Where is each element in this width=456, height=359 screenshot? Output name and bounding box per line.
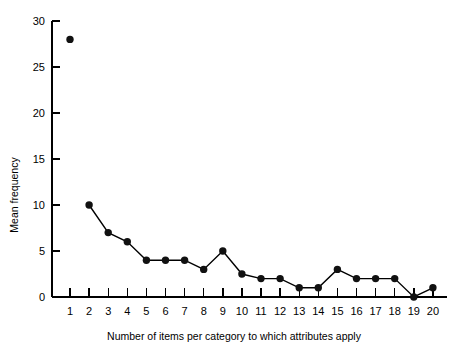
data-point-marker (181, 257, 188, 264)
y-axis (52, 21, 60, 297)
data-point-marker (410, 293, 417, 300)
y-axis-title: Mean frequency (8, 157, 20, 233)
data-point-marker (353, 275, 360, 282)
x-axis-title: Number of items per category to which at… (107, 330, 362, 342)
x-tick-label: 8 (201, 305, 207, 317)
x-tick-label: 10 (236, 305, 248, 317)
x-tick-label: 3 (105, 305, 111, 317)
data-point-marker (124, 238, 131, 245)
x-tick-label: 19 (408, 305, 420, 317)
data-point-marker (219, 247, 226, 254)
data-point-marker (66, 36, 73, 43)
x-axis (52, 288, 447, 297)
data-point-marker (276, 275, 283, 282)
data-series (66, 36, 436, 301)
data-point-marker (315, 284, 322, 291)
y-tick-label: 0 (39, 291, 45, 303)
y-axis-tick-labels: 051015202530 (33, 15, 45, 303)
data-point-marker (429, 284, 436, 291)
figure-container: 051015202530 123456789101112131415161718… (0, 0, 456, 359)
y-tick-label: 5 (39, 245, 45, 257)
data-point-marker (238, 270, 245, 277)
data-point-marker (334, 266, 341, 273)
x-tick-label: 5 (143, 305, 149, 317)
data-point-marker (200, 266, 207, 273)
x-tick-label: 16 (350, 305, 362, 317)
x-tick-label: 17 (369, 305, 381, 317)
x-tick-label: 18 (389, 305, 401, 317)
x-tick-label: 2 (86, 305, 92, 317)
data-point-marker (391, 275, 398, 282)
x-tick-label: 4 (124, 305, 130, 317)
x-tick-label: 20 (427, 305, 439, 317)
data-point-marker (162, 257, 169, 264)
y-tick-label: 30 (33, 15, 45, 27)
data-point-marker (105, 229, 112, 236)
data-point-marker (296, 284, 303, 291)
line-chart: 051015202530 123456789101112131415161718… (0, 0, 456, 359)
data-point-marker (143, 257, 150, 264)
x-tick-label: 9 (220, 305, 226, 317)
x-tick-label: 11 (255, 305, 266, 317)
y-tick-label: 15 (33, 153, 45, 165)
x-tick-label: 14 (312, 305, 324, 317)
y-tick-label: 10 (33, 199, 45, 211)
data-point-marker (85, 201, 92, 208)
x-tick-label: 12 (274, 305, 286, 317)
x-tick-label: 1 (67, 305, 73, 317)
x-axis-tick-labels: 1234567891011121314151617181920 (67, 305, 439, 317)
data-point-marker (257, 275, 264, 282)
y-tick-label: 20 (33, 107, 45, 119)
series-line (89, 205, 433, 297)
x-tick-label: 15 (331, 305, 343, 317)
data-point-marker (372, 275, 379, 282)
y-tick-label: 25 (33, 61, 45, 73)
x-tick-label: 13 (293, 305, 305, 317)
x-tick-label: 7 (182, 305, 188, 317)
x-tick-label: 6 (162, 305, 168, 317)
